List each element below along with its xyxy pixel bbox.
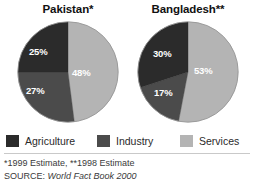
legend: Agriculture Industry Services <box>0 132 254 154</box>
pie-label-industry-bangladesh: 17% <box>154 88 172 98</box>
legend-label-services: Services <box>199 135 239 147</box>
legend-swatch-services-icon <box>180 135 193 147</box>
legend-label-industry: Industry <box>116 135 153 147</box>
pie-wrap-pakistan: 25% 27% 48% <box>16 20 120 124</box>
legend-item-industry[interactable]: Industry <box>97 132 153 150</box>
pie-label-agriculture-pakistan: 25% <box>29 47 47 57</box>
legend-item-services[interactable]: Services <box>180 132 239 150</box>
charts-row: Pakistan* 25% 27% 48% Bangladesh** <box>0 2 254 128</box>
legend-swatch-agriculture-icon <box>6 135 19 147</box>
footnote-source-label: SOURCE: <box>4 171 48 181</box>
footnote-divider <box>4 153 250 154</box>
pie-label-services-pakistan: 48% <box>72 68 90 78</box>
pie-wrap-bangladesh: 30% 17% 53% <box>136 20 240 124</box>
footnote-estimates: *1999 Estimate, **1998 Estimate <box>4 157 252 170</box>
chart-title-bangladesh: Bangladesh** <box>128 2 248 18</box>
footnotes: *1999 Estimate, **1998 Estimate SOURCE: … <box>4 157 252 182</box>
footnote-source: SOURCE: World Fact Book 2000 <box>4 170 252 183</box>
pie-label-services-bangladesh: 53% <box>194 66 212 76</box>
pie-label-industry-pakistan: 27% <box>26 86 44 96</box>
legend-label-agriculture: Agriculture <box>25 135 75 147</box>
legend-swatch-industry-icon <box>97 135 110 147</box>
pie-svg-pakistan <box>16 20 120 124</box>
pie-slice-industry-pakistan[interactable] <box>18 72 74 122</box>
footnote-source-title: World Fact Book 2000 <box>48 171 137 181</box>
pie-chart-figure: Pakistan* 25% 27% 48% Bangladesh** <box>0 0 254 189</box>
pie-label-agriculture-bangladesh: 30% <box>153 49 171 59</box>
chart-bangladesh: Bangladesh** 30% 17% 53% <box>128 2 248 128</box>
chart-pakistan: Pakistan* 25% 27% 48% <box>8 2 128 128</box>
legend-item-agriculture[interactable]: Agriculture <box>6 132 75 150</box>
pie-svg-bangladesh <box>136 20 240 124</box>
chart-title-pakistan: Pakistan* <box>8 2 128 18</box>
